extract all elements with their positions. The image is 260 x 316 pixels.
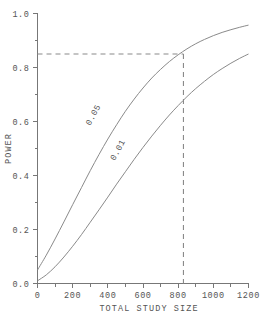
curves-group [38,25,249,281]
y-tick-label: 0.8 [12,64,29,74]
y-axis-tick-labels: 0.00.20.40.60.81.0 [12,10,29,290]
x-tick-label: 600 [134,291,151,301]
y-tick-label: 0.2 [12,226,29,236]
chart-canvas: 0.00.20.40.60.81.0 020040060080010001200… [0,0,260,316]
curve-label-0-05: 0.05 [84,103,103,127]
y-tick-label: 0.4 [12,172,29,182]
y-axis-title: POWER [4,133,14,164]
x-tick-label: 200 [64,291,81,301]
x-tick-label: 800 [170,291,187,301]
curve-label-0-01: 0.01 [109,138,128,162]
x-tick-label: 1000 [202,291,225,301]
x-axis-tick-labels: 020040060080010001200 [35,291,260,301]
y-tick-label: 1.0 [12,10,29,20]
power-curve-chart: 0.00.20.40.60.81.0 020040060080010001200… [0,0,260,316]
x-axis-ticks [38,284,249,289]
reference-lines-group [38,54,184,284]
y-axis-ticks [33,14,38,284]
x-tick-label: 1200 [237,291,260,301]
x-tick-label: 400 [99,291,116,301]
x-tick-label: 0 [35,291,41,301]
y-tick-label: 0.6 [12,118,29,128]
curve-labels-group: 0.050.01 [84,103,128,163]
y-tick-label: 0.0 [12,280,29,290]
x-axis-title: TOTAL STUDY SIZE [99,304,198,314]
